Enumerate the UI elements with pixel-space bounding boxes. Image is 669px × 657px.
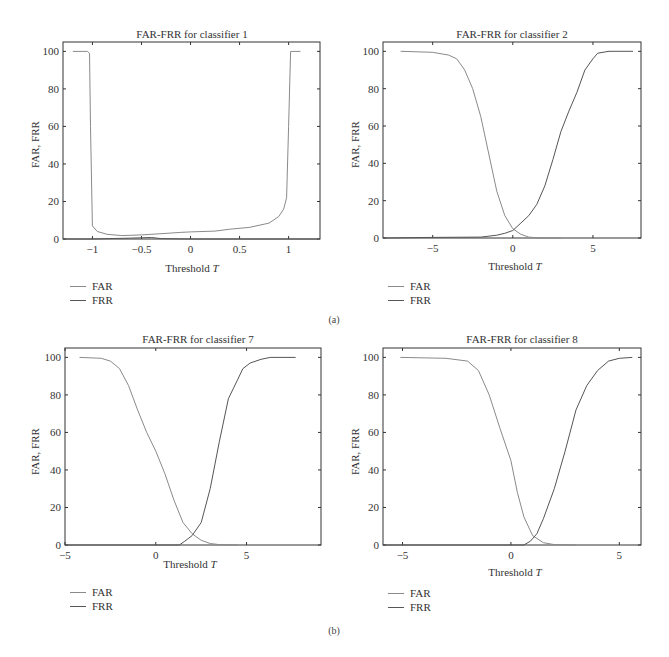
- series-line-frr: [385, 51, 633, 238]
- legend-line-frr-icon: [388, 607, 404, 608]
- series-line-far: [400, 357, 576, 545]
- chart-classifier-2: −505020406080100 FAR-FRR for classifier …: [335, 0, 669, 310]
- chart-title: FAR-FRR for classifier 7: [142, 333, 253, 345]
- series-line-far: [401, 51, 561, 238]
- x-axis-label-var: T: [213, 262, 219, 274]
- legend: FAR FRR: [70, 585, 113, 613]
- x-tick-label: 5: [617, 549, 623, 561]
- plot-frame: [383, 348, 641, 545]
- y-tick-label: 100: [43, 45, 60, 57]
- legend-line-frr-icon: [388, 300, 404, 301]
- legend-line-frr-icon: [70, 606, 86, 607]
- x-tick-label: −0.5: [131, 243, 151, 255]
- legend-line-far-icon: [70, 592, 86, 593]
- y-tick-label: 100: [363, 351, 380, 363]
- x-tick-label: 5: [590, 242, 596, 254]
- y-tick-label: 60: [50, 426, 62, 438]
- legend-label-frr: FRR: [92, 293, 113, 307]
- y-tick-label: 60: [368, 426, 380, 438]
- legend-item-far: FAR: [388, 586, 431, 600]
- x-axis-label-text: Threshold: [488, 260, 535, 272]
- y-tick-label: 0: [374, 539, 380, 551]
- x-axis-label: Threshold T: [163, 558, 216, 570]
- series-line-far: [80, 357, 238, 545]
- y-tick-label: 40: [48, 158, 60, 170]
- chart-classifier-1: −1−0.500.51020406080100 FAR-FRR for clas…: [0, 0, 335, 310]
- chart-classifier-8: −505020406080100 FAR-FRR for classifier …: [335, 320, 669, 620]
- y-tick-label: 0: [54, 233, 60, 245]
- x-axis-label-text: Threshold: [163, 558, 210, 570]
- legend-label-far: FAR: [92, 279, 113, 293]
- plot-frame: [63, 42, 320, 239]
- y-tick-label: 40: [368, 157, 380, 169]
- legend-item-frr: FRR: [70, 293, 113, 307]
- x-tick-label: 1: [286, 243, 292, 255]
- x-tick-label: 0: [510, 242, 516, 254]
- x-tick-label: 0: [188, 243, 194, 255]
- y-axis-label: FAR, FRR: [29, 428, 41, 475]
- y-tick-label: 60: [368, 120, 380, 132]
- legend-line-far-icon: [388, 593, 404, 594]
- chart-title: FAR-FRR for classifier 1: [136, 28, 247, 40]
- x-tick-label: 0.5: [233, 243, 247, 255]
- legend-item-frr: FRR: [388, 600, 431, 614]
- y-tick-label: 80: [368, 83, 380, 95]
- legend-item-far: FAR: [70, 279, 113, 293]
- y-tick-label: 0: [374, 232, 380, 244]
- legend-label-frr: FRR: [410, 600, 431, 614]
- x-tick-label: 0: [508, 549, 514, 561]
- y-tick-label: 0: [56, 539, 62, 551]
- legend: FAR FRR: [70, 279, 113, 307]
- y-axis-label: FAR, FRR: [29, 121, 41, 168]
- x-tick-label: 5: [244, 549, 250, 561]
- x-tick-label: −5: [397, 549, 409, 561]
- x-axis-label: Threshold T: [488, 566, 541, 578]
- y-tick-label: 80: [48, 83, 60, 95]
- legend-label-far: FAR: [410, 586, 431, 600]
- legend-item-frr: FRR: [70, 599, 113, 613]
- y-tick-label: 80: [50, 389, 62, 401]
- figure-label-b: (b): [328, 625, 340, 636]
- legend-line-far-icon: [70, 286, 86, 287]
- legend-label-far: FAR: [410, 279, 431, 293]
- y-tick-label: 100: [363, 45, 380, 57]
- x-axis-label-text: Threshold: [165, 262, 212, 274]
- x-tick-label: −1: [87, 243, 99, 255]
- legend: FAR FRR: [388, 586, 431, 614]
- y-tick-label: 20: [368, 195, 380, 207]
- y-tick-label: 60: [48, 120, 60, 132]
- legend-item-far: FAR: [70, 585, 113, 599]
- legend-line-frr-icon: [70, 300, 86, 301]
- legend-item-frr: FRR: [388, 293, 431, 307]
- chart-title: FAR-FRR for classifier 8: [466, 333, 577, 345]
- legend-item-far: FAR: [388, 279, 431, 293]
- y-tick-label: 80: [368, 389, 380, 401]
- x-axis-label-var: T: [211, 558, 217, 570]
- chart-classifier-7: −505020406080100 FAR-FRR for classifier …: [0, 320, 335, 620]
- x-tick-label: −5: [427, 242, 439, 254]
- y-tick-label: 20: [368, 501, 380, 513]
- plot-area-classifier-7: −505020406080100: [0, 320, 335, 620]
- chart-title: FAR-FRR for classifier 2: [456, 28, 567, 40]
- legend-line-far-icon: [388, 286, 404, 287]
- x-axis-label-text: Threshold: [488, 566, 535, 578]
- x-axis-label: Threshold T: [488, 260, 541, 272]
- legend-label-frr: FRR: [92, 599, 113, 613]
- plot-frame: [65, 348, 321, 545]
- x-axis-label-var: T: [536, 260, 542, 272]
- y-axis-label: FAR, FRR: [349, 121, 361, 168]
- y-tick-label: 20: [48, 195, 60, 207]
- plot-frame: [383, 42, 641, 238]
- legend-label-far: FAR: [92, 585, 113, 599]
- y-tick-label: 100: [45, 351, 62, 363]
- y-axis-label: FAR, FRR: [349, 428, 361, 475]
- y-tick-label: 40: [50, 464, 62, 476]
- x-axis-label: Threshold T: [165, 262, 218, 274]
- legend: FAR FRR: [388, 279, 431, 307]
- x-axis-label-var: T: [536, 566, 542, 578]
- y-tick-label: 20: [50, 501, 62, 513]
- series-line-far: [73, 51, 301, 235]
- x-tick-label: 0: [153, 549, 159, 561]
- y-tick-label: 40: [368, 464, 380, 476]
- legend-label-frr: FRR: [410, 293, 431, 307]
